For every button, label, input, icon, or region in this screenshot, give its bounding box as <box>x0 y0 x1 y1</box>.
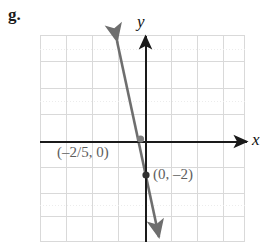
coordinate-plane <box>0 0 268 252</box>
x-intercept-point <box>137 135 144 142</box>
y-intercept-label: (0, –2) <box>153 167 193 182</box>
x-intercept-label: (–2/5, 0) <box>57 145 109 160</box>
y-axis-label: y <box>137 13 145 30</box>
x-axis-label: x <box>252 131 260 148</box>
graph-figure: g. <box>0 0 268 252</box>
y-intercept-point <box>142 171 149 178</box>
